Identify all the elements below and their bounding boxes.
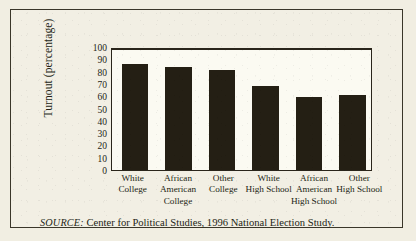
plot-area	[111, 48, 372, 171]
y-tick-0: 0	[73, 166, 107, 176]
y-tick-40: 40	[73, 117, 107, 127]
source-note: SOURCE: Center for Political Studies, 19…	[40, 217, 334, 228]
y-axis-title: Turnout (percentage)	[42, 6, 54, 131]
x-tick-label-line: High School	[332, 184, 387, 195]
source-label: SOURCE:	[40, 217, 84, 228]
bar	[296, 97, 323, 170]
bar	[339, 95, 366, 170]
x-tick-label-line: Other	[332, 173, 387, 184]
y-tick-20: 20	[73, 141, 107, 151]
x-tick-label: OtherHigh School	[332, 173, 387, 196]
source-text: Center for Political Studies, 1996 Natio…	[87, 217, 335, 228]
y-tick-10: 10	[73, 154, 107, 164]
x-axis-tick-labels: WhiteCollegeAfricanAmericanCollegeOtherC…	[107, 173, 379, 217]
figure-border: Turnout (percentage) 0102030405060708090…	[10, 9, 403, 228]
bar	[252, 86, 279, 170]
bars-layer	[112, 50, 371, 170]
bar	[122, 64, 149, 170]
x-tick-label-line: College	[150, 196, 205, 207]
y-tick-70: 70	[73, 80, 107, 90]
y-tick-30: 30	[73, 129, 107, 139]
y-tick-90: 90	[73, 55, 107, 65]
figure-container: Turnout (percentage) 0102030405060708090…	[0, 0, 416, 241]
y-tick-80: 80	[73, 68, 107, 78]
bar	[165, 67, 192, 170]
x-tick-label-line: High School	[286, 196, 341, 207]
y-tick-50: 50	[73, 105, 107, 115]
y-tick-60: 60	[73, 92, 107, 102]
bar	[209, 70, 236, 170]
y-tick-100: 100	[73, 43, 107, 53]
y-axis-tick-labels: 0102030405060708090100	[73, 42, 107, 172]
